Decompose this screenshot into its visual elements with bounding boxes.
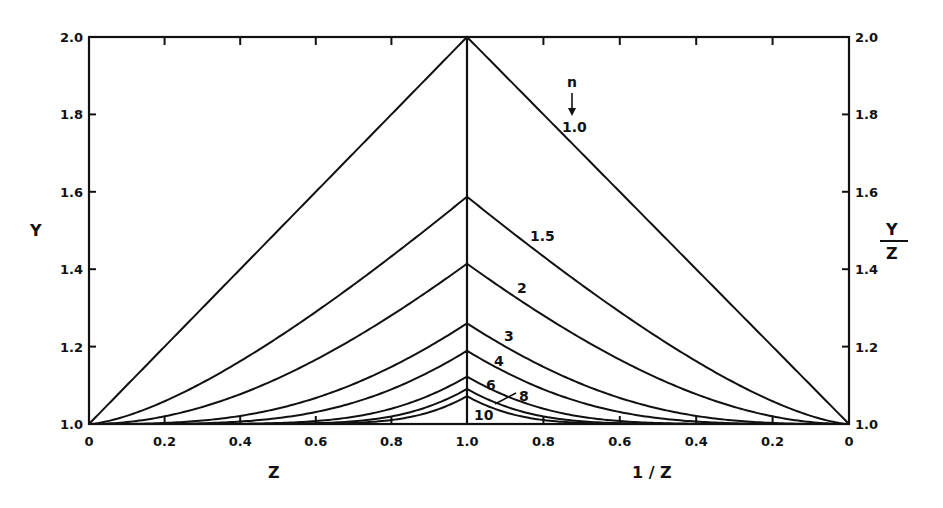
x-tick-label-right: 0.6 bbox=[608, 434, 631, 449]
y-tick-label-right: 1.8 bbox=[855, 107, 878, 122]
curve-label-n10: 10 bbox=[474, 407, 494, 423]
y-tick-label-right: 1.4 bbox=[855, 262, 878, 277]
y-axis-title-left: Y bbox=[29, 221, 42, 240]
legend-n-header: n bbox=[567, 74, 577, 90]
y-tick-label-right: 2.0 bbox=[855, 30, 878, 45]
curve-n-3 bbox=[89, 323, 849, 424]
curve-label-n3: 3 bbox=[504, 328, 514, 344]
y-tick-label-left: 1.4 bbox=[60, 262, 83, 277]
y-tick-label-left: 1.6 bbox=[60, 185, 83, 200]
y-axis-title-right-denominator: Z bbox=[886, 244, 898, 263]
x-tick-label-right: 0.4 bbox=[685, 434, 708, 449]
ticks bbox=[89, 37, 849, 424]
x-tick-label-right: 0.8 bbox=[532, 434, 555, 449]
y-tick-label-left: 1.8 bbox=[60, 107, 83, 122]
x-tick-label-left: 0.2 bbox=[153, 434, 176, 449]
y-tick-label-left: 1.0 bbox=[60, 417, 83, 432]
curve-n-4 bbox=[89, 351, 849, 424]
x-axis-title-left: Z bbox=[268, 463, 280, 482]
x-tick-label-left: 0 bbox=[84, 434, 93, 449]
x-tick-label-left: 0.8 bbox=[380, 434, 403, 449]
plot-frame bbox=[89, 37, 849, 424]
x-tick-label-right: 0 bbox=[844, 434, 853, 449]
curves bbox=[89, 37, 849, 424]
plot-border bbox=[89, 37, 849, 424]
y-axis-title-right-numerator: Y bbox=[885, 220, 898, 239]
x-axis-title-right: 1 / Z bbox=[632, 463, 672, 482]
chart: 1.01.01.21.21.41.41.61.61.81.82.02.000.2… bbox=[0, 0, 943, 508]
y-tick-label-right: 1.0 bbox=[855, 417, 878, 432]
curve-label-n1: 1.0 bbox=[562, 119, 587, 135]
curve-label-n6: 6 bbox=[486, 377, 496, 393]
y-tick-label-left: 2.0 bbox=[60, 30, 83, 45]
y-tick-label-right: 1.2 bbox=[855, 340, 878, 355]
arrow-head-icon bbox=[568, 108, 576, 116]
y-tick-label-right: 1.6 bbox=[855, 185, 878, 200]
curve-label-n1-5: 1.5 bbox=[530, 228, 555, 244]
curve-n-1-0 bbox=[89, 37, 849, 424]
x-tick-label-left: 0.4 bbox=[229, 434, 252, 449]
x-tick-label-right: 0.2 bbox=[761, 434, 784, 449]
tick-labels: 1.01.01.21.21.41.41.61.61.81.82.02.000.2… bbox=[60, 30, 878, 449]
y-tick-label-left: 1.2 bbox=[60, 340, 83, 355]
x-tick-label-left: 1.0 bbox=[455, 434, 478, 449]
x-tick-label-left: 0.6 bbox=[304, 434, 327, 449]
curve-n-2 bbox=[89, 264, 849, 424]
curve-label-n4: 4 bbox=[494, 353, 504, 369]
curve-label-n8: 8 bbox=[519, 388, 529, 404]
curve-label-n2: 2 bbox=[517, 280, 527, 296]
